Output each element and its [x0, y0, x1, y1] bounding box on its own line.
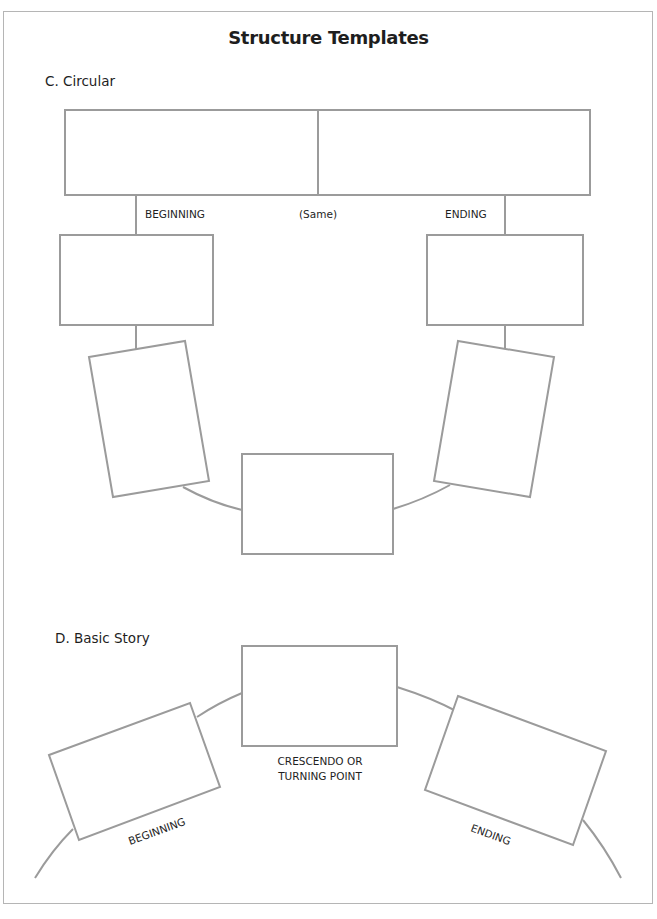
left-tilted-box[interactable]	[89, 341, 209, 497]
beginning-label: BEGINNING	[145, 208, 205, 220]
story-ending-label: ENDING	[469, 822, 512, 848]
crescendo-box[interactable]	[242, 646, 397, 746]
crescendo-label-line2: TURNING POINT	[277, 770, 362, 782]
crescendo-label-line1: CRESCENDO OR	[278, 755, 363, 767]
same-label: (Same)	[299, 208, 337, 220]
story-beginning-box[interactable]	[49, 703, 220, 840]
ending-box[interactable]	[427, 235, 583, 325]
arc-connector	[583, 820, 621, 878]
arc-connector	[397, 687, 458, 712]
top-left-half-box[interactable]	[65, 110, 318, 195]
ending-label: ENDING	[445, 208, 487, 220]
circular-diagram: BEGINNING (Same) ENDING	[60, 110, 590, 554]
basic-story-diagram: CRESCENDO OR TURNING POINT BEGINNING END…	[35, 646, 621, 878]
right-tilted-box[interactable]	[434, 341, 554, 497]
arc-connector	[197, 693, 242, 717]
bottom-center-box[interactable]	[242, 454, 393, 554]
beginning-box[interactable]	[60, 235, 213, 325]
structure-diagram: BEGINNING (Same) ENDING CRESCENDO OR TUR…	[0, 0, 657, 919]
story-ending-box[interactable]	[425, 696, 606, 845]
arc-connector	[183, 487, 242, 510]
top-right-half-box[interactable]	[318, 110, 590, 195]
arc-connector	[393, 485, 450, 509]
arc-connector	[35, 829, 73, 878]
story-beginning-label: BEGINNING	[127, 815, 187, 847]
